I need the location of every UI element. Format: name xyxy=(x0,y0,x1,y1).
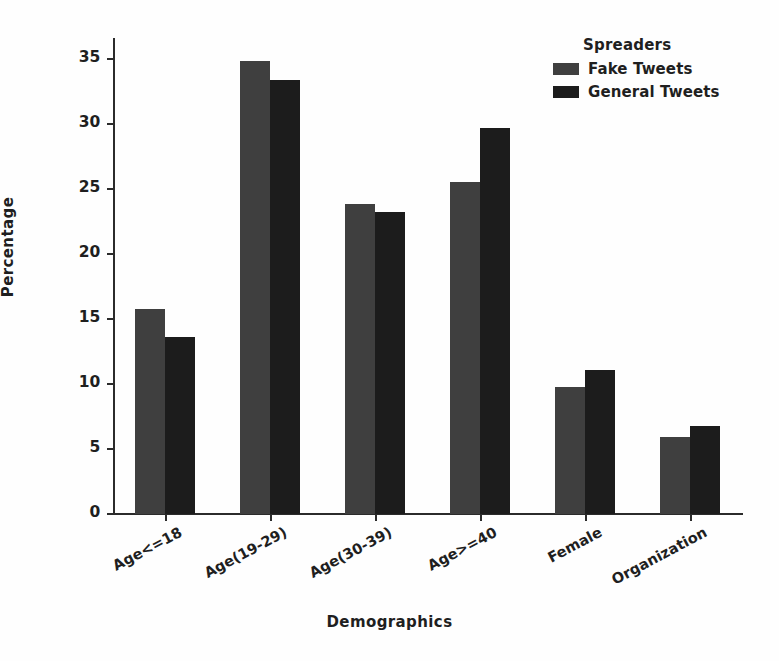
bar-fake-tweets xyxy=(240,61,270,514)
y-tick-label: 35 xyxy=(64,48,100,66)
bar-chart-figure: 05101520253035 Age<=18Age(19-29)Age(30-3… xyxy=(0,0,779,661)
bar-general-tweets xyxy=(165,337,195,514)
legend-swatch-icon xyxy=(553,86,579,98)
y-tick-label: 25 xyxy=(64,178,100,196)
bar-general-tweets xyxy=(375,212,405,514)
x-tick-mark xyxy=(375,515,377,521)
bar-fake-tweets xyxy=(135,309,165,514)
legend-title: Spreaders xyxy=(583,36,753,54)
x-tick-mark xyxy=(480,515,482,521)
y-tick-label: 10 xyxy=(64,373,100,391)
legend-entry[interactable]: Fake Tweets xyxy=(553,60,753,78)
y-axis-title: Percentage xyxy=(0,147,17,347)
legend-entries: Fake TweetsGeneral Tweets xyxy=(553,60,753,101)
y-tick-label: 15 xyxy=(64,308,100,326)
bar-fake-tweets xyxy=(345,204,375,514)
x-tick-mark xyxy=(270,515,272,521)
legend: Spreaders Fake TweetsGeneral Tweets xyxy=(553,36,753,106)
y-tick-label: 5 xyxy=(64,438,100,456)
bar-fake-tweets xyxy=(450,182,480,514)
y-axis-title-wrap: Percentage xyxy=(38,0,39,661)
bar-general-tweets xyxy=(690,426,720,514)
bar-fake-tweets xyxy=(660,437,690,514)
bar-general-tweets xyxy=(480,128,510,514)
y-tick-label: 0 xyxy=(64,503,100,521)
legend-label: Fake Tweets xyxy=(588,60,692,78)
bars-layer xyxy=(113,38,742,514)
legend-entry[interactable]: General Tweets xyxy=(553,83,753,101)
y-tick-label: 20 xyxy=(64,243,100,261)
legend-swatch-icon xyxy=(553,63,579,75)
x-axis-title: Demographics xyxy=(0,613,779,631)
bar-general-tweets xyxy=(585,370,615,514)
bar-general-tweets xyxy=(270,80,300,514)
x-tick-mark xyxy=(165,515,167,521)
x-tick-mark xyxy=(690,515,692,521)
x-tick-mark xyxy=(585,515,587,521)
legend-label: General Tweets xyxy=(588,83,720,101)
bar-fake-tweets xyxy=(555,387,585,514)
y-tick-label: 30 xyxy=(64,113,100,131)
